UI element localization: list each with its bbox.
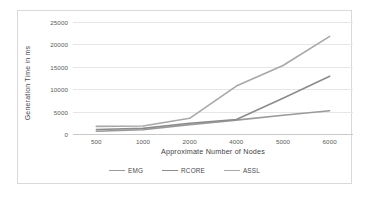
x-axis-tick-label: 2000 [183,138,197,145]
legend-label: ASSL [243,167,260,174]
x-axis-tick-label: 5000 [276,138,290,145]
y-axis-tick-label: 25000 [50,19,68,26]
axis-baseline [73,134,353,135]
series-line-assl [96,36,329,126]
x-axis-tick-label: 4000 [229,138,243,145]
legend-swatch-icon [162,170,178,172]
legend-swatch-icon [224,170,240,172]
y-axis-tick-label: 5000 [54,108,68,115]
y-axis-title: Generation Time in ms [24,46,31,121]
legend-swatch-icon [109,170,125,172]
legend-item-assl[interactable]: ASSL [224,167,260,174]
x-axis-title: Approximate Number of Nodes [73,147,353,156]
x-axis-tick-label: 1000 [136,138,150,145]
x-axis-tick-label: 500 [91,138,102,145]
x-axis-tick-label: 6000 [323,138,337,145]
chart-legend: EMGRCOREASSL [18,167,351,174]
legend-item-rcore[interactable]: RCORE [162,167,205,174]
plot-area: 0500010000150002000025000 50010002000400… [73,22,353,134]
y-axis-tick-label: 20000 [50,41,68,48]
legend-label: EMG [128,167,143,174]
legend-item-emg[interactable]: EMG [109,167,143,174]
y-axis-tick-label: 15000 [50,63,68,70]
chart-frame: Generation Time in ms 050001000015000200… [17,10,352,184]
y-axis-tick-label: 0 [64,131,68,138]
y-axis-tick-label: 10000 [50,86,68,93]
legend-label: RCORE [181,167,205,174]
series-lines [73,22,353,134]
